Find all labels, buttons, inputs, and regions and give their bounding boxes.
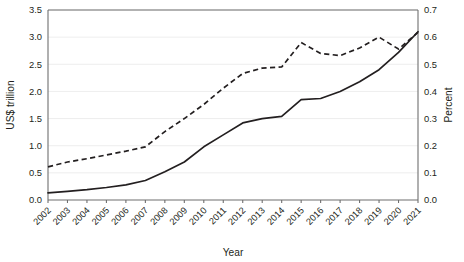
plot-frame [48, 10, 418, 200]
x-tick-label: 2016 [304, 205, 326, 227]
y-tick-label: 2.0 [29, 86, 42, 97]
y-tick-label: 1.0 [29, 140, 42, 151]
x-tick-label: 2020 [382, 205, 404, 227]
y-tick-label: 0.5 [29, 167, 42, 178]
y2-tick-label: 0.0 [424, 194, 437, 205]
x-tick-label: 2013 [246, 205, 268, 227]
dual-axis-line-chart: 0.00.51.01.52.02.53.03.5 0.00.10.20.30.4… [0, 0, 464, 262]
x-axis-title: Year [223, 247, 244, 258]
x-tick-label: 2011 [207, 205, 228, 226]
y2-tick-label: 0.7 [424, 4, 437, 15]
left-axis-ticks: 0.00.51.01.52.02.53.03.5 [29, 4, 42, 205]
series-group [48, 32, 418, 193]
x-tick-label: 2006 [109, 205, 131, 227]
y2-tick-label: 0.2 [424, 140, 437, 151]
y-tick-label: 0.0 [29, 194, 42, 205]
y-tick-label: 1.5 [29, 113, 42, 124]
x-tick-label: 2021 [401, 205, 423, 227]
x-tick-label: 2007 [129, 205, 151, 227]
y2-tick-label: 0.3 [424, 113, 437, 124]
y-axis-title: US$ trillion [5, 80, 16, 129]
x-tick-label: 2015 [285, 205, 307, 227]
x-tick-label: 2012 [226, 205, 248, 227]
gridlines [48, 10, 418, 173]
y-tick-label: 2.5 [29, 59, 42, 70]
x-tick-label: 2014 [265, 205, 287, 227]
series-line-usd-trillion [48, 32, 418, 193]
x-tick-label: 2002 [31, 205, 53, 227]
series-line-percent [48, 32, 418, 167]
y2-tick-label: 0.6 [424, 31, 437, 42]
y2-axis-title: Percent [443, 87, 454, 122]
x-tick-label: 2010 [187, 205, 209, 227]
x-tick-label: 2005 [90, 205, 112, 227]
y2-tick-label: 0.4 [424, 86, 437, 97]
x-tick-label: 2018 [343, 205, 365, 227]
y-tick-label: 3.0 [29, 31, 42, 42]
x-tick-label: 2017 [323, 205, 345, 227]
x-tick-label: 2004 [70, 205, 92, 227]
chart-container: 0.00.51.01.52.02.53.03.5 0.00.10.20.30.4… [0, 0, 464, 262]
y2-tick-label: 0.5 [424, 59, 437, 70]
y2-tick-label: 0.1 [424, 167, 437, 178]
x-axis-ticks: 2002200320042005200620072008200920102011… [31, 200, 423, 227]
x-tick-label: 2009 [168, 205, 190, 227]
x-tick-label: 2019 [362, 205, 384, 227]
x-tick-label: 2008 [148, 205, 170, 227]
x-tick-label: 2003 [51, 205, 73, 227]
y-tick-label: 3.5 [29, 4, 42, 15]
right-axis-ticks: 0.00.10.20.30.40.50.60.7 [424, 4, 437, 205]
